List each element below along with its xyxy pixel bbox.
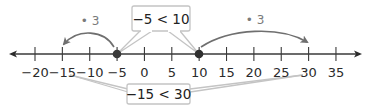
tick-label: −10 [76, 65, 103, 80]
tick-label: −15 [49, 65, 76, 80]
axis-tick-labels: −20−15−10−505101520253035 [21, 65, 344, 80]
arc-right-operation: • 3 [246, 13, 265, 27]
top-callout: −5 < 10 [117, 6, 199, 54]
point-minus-5 [113, 50, 122, 59]
top-callout-text: −5 < 10 [133, 11, 190, 27]
tick-label: 5 [168, 65, 176, 80]
tick-label: 35 [328, 65, 345, 80]
top-callout-pointer [117, 31, 199, 54]
tick-label: 30 [300, 65, 317, 80]
tick-label: 0 [140, 65, 148, 80]
arc-right-multiply-3 [201, 31, 307, 47]
number-line-axis: −20−15−10−505101520253035 [9, 47, 362, 80]
point-10 [195, 50, 204, 59]
tick-label: 20 [246, 65, 263, 80]
number-line-diagram: −5 < 10 −15 < 30 −20−15−10−5051015202530… [0, 0, 371, 108]
tick-label: −5 [107, 65, 126, 80]
tick-label: 25 [273, 65, 290, 80]
arc-left-multiply-3 [64, 33, 114, 47]
bottom-callout: −15 < 30 [70, 75, 303, 104]
tick-label: 15 [218, 65, 235, 80]
bottom-callout-text: −15 < 30 [126, 86, 192, 102]
tick-label: −20 [21, 65, 48, 80]
tick-label: 10 [191, 65, 208, 80]
arc-left-operation: • 3 [81, 14, 100, 28]
